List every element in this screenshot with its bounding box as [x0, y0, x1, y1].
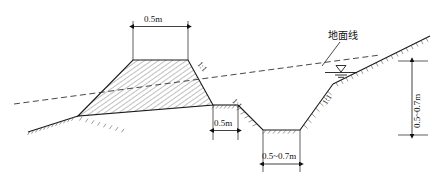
ground-line-label: 地面线 — [328, 27, 358, 42]
dim-crest-width — [133, 21, 188, 60]
embankment-fill-body — [78, 60, 213, 116]
dim-label-crest-width: 0.5m — [144, 14, 162, 24]
dim-label-berm-width: 0.5m — [214, 118, 232, 128]
dim-label-ditch-depth: 0.5~0.7m — [412, 94, 422, 128]
ground-line-leader — [322, 42, 340, 66]
embankment-base-earth-ticks — [80, 117, 125, 132]
diagram-canvas: 0.5m 0.5m 0.5~0.7m 0.5~0.7m 地面线 1:1 1:1 … — [0, 0, 448, 186]
ditch-left-slope-ticks — [237, 108, 258, 126]
natural-ground-line-left — [28, 116, 79, 135]
ditch-profile — [238, 84, 333, 130]
cross-section-drawing — [0, 0, 448, 186]
dim-label-ditch-bottom-width: 0.5~0.7m — [262, 151, 296, 161]
water-table-symbol — [325, 66, 357, 78]
